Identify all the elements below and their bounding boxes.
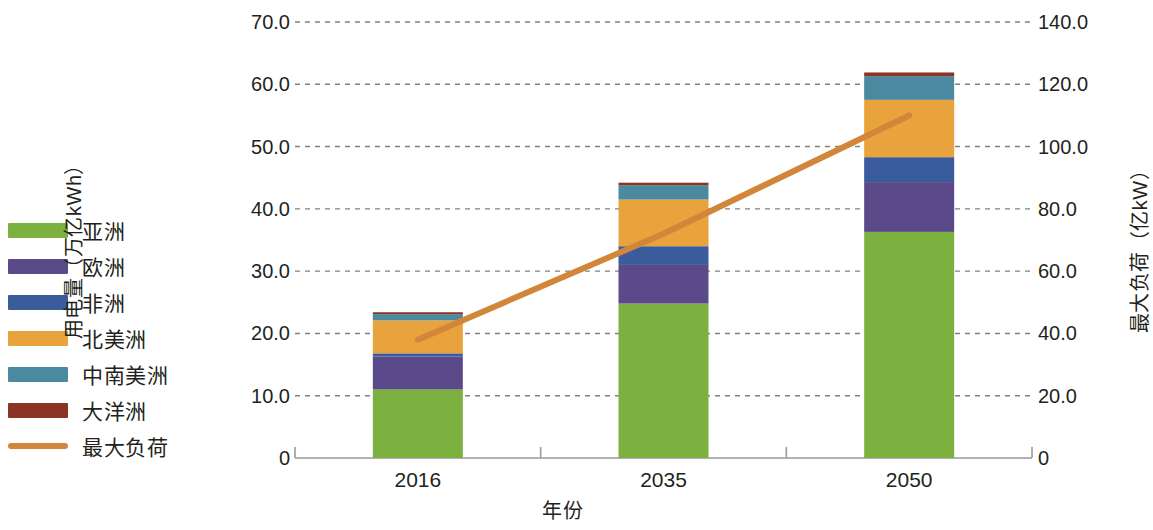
peak-load-line[interactable] bbox=[418, 115, 909, 339]
bar-segment-大洋洲[interactable] bbox=[373, 312, 463, 314]
bar-segment-北美洲[interactable] bbox=[619, 200, 709, 247]
y-axis-left-tick-label: 20.0 bbox=[200, 323, 290, 343]
stacked-bar[interactable] bbox=[864, 72, 954, 458]
chart-legend: 亚洲欧洲非洲北美洲中南美洲大洋洲最大负荷 bbox=[8, 212, 193, 464]
bar-segment-亚洲[interactable] bbox=[864, 232, 954, 458]
bar-segment-中南美洲[interactable] bbox=[864, 76, 954, 100]
legend-item[interactable]: 亚洲 bbox=[8, 212, 193, 248]
x-axis-tick-label: 2050 bbox=[849, 468, 969, 492]
y-axis-right-tick-label: 80.0 bbox=[1038, 199, 1128, 219]
y-axis-left-title: 用电量（万亿kWh） bbox=[58, 87, 87, 407]
legend-item[interactable]: 欧洲 bbox=[8, 248, 193, 284]
bar-segment-欧洲[interactable] bbox=[619, 265, 709, 304]
y-axis-left-tick-label: 10.0 bbox=[200, 386, 290, 406]
y-axis-left-tick-label: 70.0 bbox=[200, 12, 290, 32]
y-axis-left-tick-label: 30.0 bbox=[200, 261, 290, 281]
bar-segment-大洋洲[interactable] bbox=[619, 183, 709, 185]
bar-segment-非洲[interactable] bbox=[619, 246, 709, 265]
x-axis-tick-label: 2035 bbox=[604, 468, 724, 492]
y-axis-left-tick-label: 50.0 bbox=[200, 137, 290, 157]
x-axis-title: 年份 bbox=[0, 495, 1125, 524]
stacked-bar[interactable] bbox=[373, 312, 463, 458]
legend-line-swatch bbox=[8, 443, 68, 449]
y-axis-right-tick-label: 100.0 bbox=[1038, 137, 1128, 157]
y-axis-right-tick-label: 0 bbox=[1038, 448, 1128, 468]
bar-segment-北美洲[interactable] bbox=[373, 320, 463, 353]
bar-segment-非洲[interactable] bbox=[864, 157, 954, 182]
y-axis-right-tick-label: 60.0 bbox=[1038, 261, 1128, 281]
bar-segment-欧洲[interactable] bbox=[864, 182, 954, 232]
bar-segment-欧洲[interactable] bbox=[373, 356, 463, 389]
bar-segment-亚洲[interactable] bbox=[373, 389, 463, 458]
legend-item-label: 大洋洲 bbox=[82, 395, 147, 425]
legend-item-label: 中南美洲 bbox=[82, 359, 168, 389]
y-axis-right-tick-label: 40.0 bbox=[1038, 323, 1128, 343]
y-axis-left-tick-label: 40.0 bbox=[200, 199, 290, 219]
legend-item-label: 最大负荷 bbox=[82, 431, 168, 461]
y-axis-right-ticks: 020.040.060.080.0100.0120.0140.0 bbox=[1038, 0, 1128, 530]
legend-item[interactable]: 北美洲 bbox=[8, 320, 193, 356]
stacked-bar[interactable] bbox=[619, 183, 709, 458]
legend-item[interactable]: 大洋洲 bbox=[8, 392, 193, 428]
y-axis-right-tick-label: 140.0 bbox=[1038, 12, 1128, 32]
x-axis-ticks: 201620352050 bbox=[290, 468, 1010, 498]
bar-segment-中南美洲[interactable] bbox=[373, 314, 463, 320]
legend-item[interactable]: 非洲 bbox=[8, 284, 193, 320]
legend-item-label: 亚洲 bbox=[82, 215, 125, 245]
y-axis-right-tick-label: 20.0 bbox=[1038, 386, 1128, 406]
bar-segment-大洋洲[interactable] bbox=[864, 72, 954, 76]
legend-item-label: 北美洲 bbox=[82, 323, 147, 353]
y-axis-left-ticks: 010.020.030.040.050.060.070.0 bbox=[200, 0, 290, 530]
y-axis-left-tick-label: 0 bbox=[200, 448, 290, 468]
legend-item-label: 非洲 bbox=[82, 287, 125, 317]
bar-segment-亚洲[interactable] bbox=[619, 304, 709, 458]
bar-segment-中南美洲[interactable] bbox=[619, 185, 709, 199]
bar-segment-北美洲[interactable] bbox=[864, 100, 954, 157]
y-axis-left-tick-label: 60.0 bbox=[200, 74, 290, 94]
x-axis-tick-label: 2016 bbox=[358, 468, 478, 492]
legend-item[interactable]: 中南美洲 bbox=[8, 356, 193, 392]
bar-segment-非洲[interactable] bbox=[373, 353, 463, 356]
legend-item-label: 欧洲 bbox=[82, 251, 125, 281]
legend-item[interactable]: 最大负荷 bbox=[8, 428, 193, 464]
y-axis-right-tick-label: 120.0 bbox=[1038, 74, 1128, 94]
